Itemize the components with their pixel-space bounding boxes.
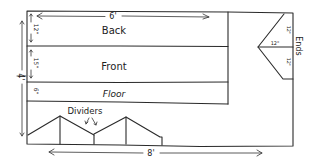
front-height-dimension: 15" bbox=[30, 50, 41, 78]
ends-top-label: 12" bbox=[286, 26, 292, 35]
front-height-label: 15" bbox=[33, 58, 40, 69]
floor-height-label: 6" bbox=[33, 88, 40, 95]
panel-width-label: 6' bbox=[109, 12, 116, 21]
height-4ft-dimension: 4' bbox=[16, 21, 26, 136]
back-height-dimension: 12" bbox=[30, 14, 41, 42]
main-panel bbox=[27, 12, 228, 104]
width-8ft-dimension: 8' bbox=[49, 149, 262, 158]
section-label-back: Back bbox=[102, 25, 126, 36]
ends-depth-label: 12" bbox=[271, 40, 280, 46]
dividers: Dividers bbox=[28, 106, 162, 145]
dividers-label: Dividers bbox=[68, 106, 103, 116]
section-label-floor: Floor bbox=[103, 89, 127, 99]
back-height-label: 12" bbox=[33, 24, 40, 35]
ends-bottom-label: 12" bbox=[286, 58, 292, 67]
overall-width-label: 8' bbox=[147, 149, 154, 158]
overall-height-label: 4' bbox=[16, 73, 25, 80]
layout-diagram: 6' Back Front Floor 12" 15" 6" bbox=[0, 0, 316, 164]
outer-board bbox=[27, 11, 293, 147]
section-label-front: Front bbox=[101, 61, 126, 72]
dividers-pointer-arrows bbox=[85, 118, 97, 125]
width-6ft-dimension: 6' bbox=[37, 12, 209, 21]
ends-piece: 12" 12" 12" Ends bbox=[258, 14, 303, 79]
ends-label: Ends bbox=[294, 36, 303, 55]
